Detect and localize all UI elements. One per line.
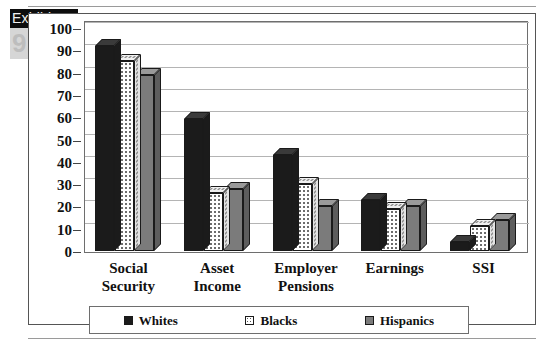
y-axis-tick-mark [73,141,81,142]
x-axis-label-line: Employer [262,259,351,277]
x-axis-label-line: Pensions [262,277,351,295]
bar-group [450,21,509,253]
bar-front-face [361,200,380,251]
bar-side-face [134,54,141,251]
x-axis-label-line: Social [84,259,173,277]
bar-whites[interactable] [273,155,292,251]
bar-side-face [243,182,250,251]
bar-group [184,21,243,253]
bar-side-face [420,199,427,251]
bar-group [361,21,420,253]
bar-side-face [203,112,210,251]
y-axis-tick-mark [73,163,81,164]
bar-whites[interactable] [184,119,203,251]
bar-group [95,21,154,253]
x-axis-label-2: EmployerPensions [262,259,351,295]
y-axis-tick-label: 20 [57,200,72,215]
bar-side-face [292,148,299,251]
x-axis-label-line: Income [173,277,262,295]
y-axis-tick-mark [73,29,81,30]
chart-legend: WhitesBlacksHispanics [89,306,469,334]
x-axis-label-line: Asset [173,259,262,277]
bottom-divider-rule [28,338,536,339]
x-axis-label-line: SSI [439,259,528,277]
legend-label: Whites [139,314,178,327]
plot-wrapper [84,21,528,253]
bar-whites[interactable] [95,46,114,251]
y-axis-tick-mark [73,96,81,97]
legend-item-hispanics[interactable]: Hispanics [365,314,434,327]
x-axis-label-3: Earnings [350,259,439,277]
legend-item-whites[interactable]: Whites [124,314,178,327]
x-axis-label-0: SocialSecurity [84,259,173,295]
x-axis-label-1: AssetIncome [173,259,262,295]
dotted-square-icon [245,316,254,325]
bar-whites[interactable] [361,200,380,251]
bar-side-face [312,177,319,251]
x-axis-labels: SocialSecurityAssetIncomeEmployerPension… [84,259,528,301]
y-axis-tick-label: 50 [57,133,72,148]
y-axis-tick-label: 100 [50,22,73,37]
y-axis-tick-mark [73,51,81,52]
bar-front-face [450,242,469,251]
bar-side-face [223,186,230,251]
bar-front-face [273,155,292,251]
bar-side-face [400,202,407,251]
legend-label: Blacks [260,314,297,327]
bar-side-face [114,39,121,251]
bar-side-face [154,68,161,251]
y-axis-tick-mark [73,118,81,119]
bar-whites[interactable] [450,242,469,251]
y-axis-tick-mark [73,230,81,231]
y-axis-tick-mark [73,252,81,253]
x-axis-label-line: Earnings [350,259,439,277]
y-axis-tick-label: 30 [57,178,72,193]
y-axis-tick-label: 80 [57,66,72,81]
chart-frame: 1009080706050403020100 SocialSecurityAss… [28,13,536,325]
y-axis-tick-mark [73,185,81,186]
x-axis-label-line: Security [84,277,173,295]
bars-layer [84,21,528,253]
y-axis-tick-mark [73,207,81,208]
legend-items: WhitesBlacksHispanics [90,307,468,333]
y-axis-tick-label: 60 [57,111,72,126]
black-square-icon [124,316,133,325]
y-axis: 1009080706050403020100 [29,21,84,253]
top-divider-rule [28,6,536,7]
y-axis-tick-label: 40 [57,155,72,170]
bar-front-face [184,119,203,251]
y-axis-tick-mark [73,74,81,75]
y-axis-tick-label: 70 [57,88,72,103]
x-axis-label-4: SSI [439,259,528,277]
y-axis-tick-label: 0 [65,245,73,260]
y-axis-tick-label: 90 [57,44,72,59]
bar-group [273,21,332,253]
bar-front-face [95,46,114,251]
gray-square-icon [365,316,374,325]
y-axis-tick-label: 10 [57,222,72,237]
bar-side-face [332,199,339,251]
legend-label: Hispanics [380,314,434,327]
legend-item-blacks[interactable]: Blacks [245,314,297,327]
bar-side-face [380,193,387,251]
